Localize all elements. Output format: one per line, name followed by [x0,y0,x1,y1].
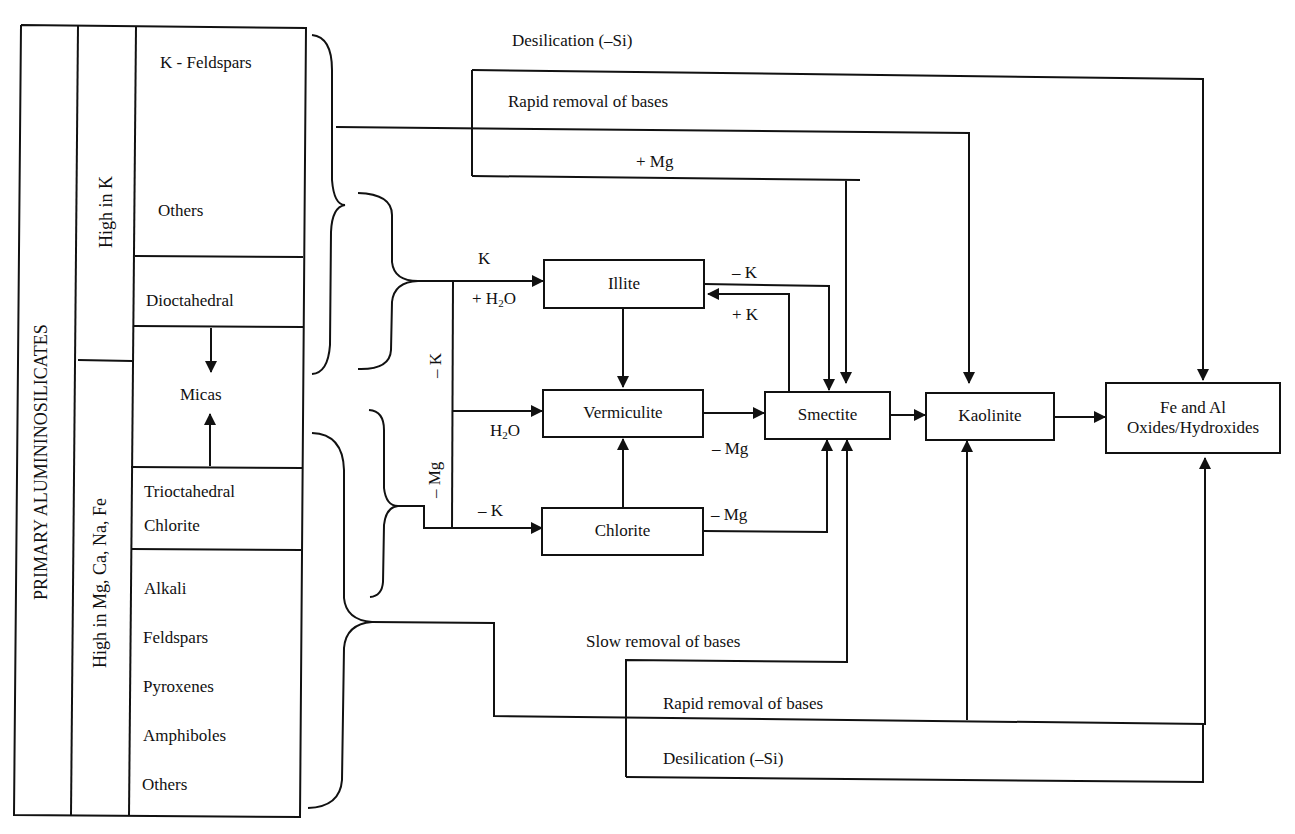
arrow-illite-to-smectite [704,284,829,390]
table-item-amphiboles: Amphiboles [143,727,226,744]
primary-aluminosilicates-label: PRIMARY ALUMININOSILICATES [32,324,50,600]
table-item-others-mg: Others [142,776,187,793]
node-chlorite: Chlorite [541,507,704,556]
brace-mg-ca-minerals [308,433,372,808]
h2o-suffix: O [508,421,520,440]
table-item-feldspars: Feldspars [143,629,208,646]
label-desilication-top: Desilication (–Si) [512,32,632,49]
table-item-chlorite: Chlorite [144,517,200,534]
route-rapid-removal-bottom [372,458,1205,724]
table-item-micas: Micas [180,386,222,403]
label-illite-plus-k: + K [732,306,758,323]
h2o-prefix: + H [472,289,498,308]
table-item-trioctahedral: Trioctahedral [144,483,235,500]
brace-trioctahedral [369,410,398,597]
table-item-others-k: Others [158,202,203,219]
label-plus-h2o: + H2O [472,290,516,309]
table-item-k-feldspars: K - Feldspars [160,54,252,71]
label-illite-minus-k: – K [732,264,757,281]
table-item-dioctahedral: Dioctahedral [146,292,234,309]
node-smectite: Smectite [764,391,891,440]
label-rapid-removal-bottom: Rapid removal of bases [663,695,823,712]
label-k: K [478,250,490,267]
table-item-pyroxenes: Pyroxenes [143,678,214,695]
brace-k-minerals [358,193,418,369]
group-label-high-mg-ca-na-fe: High in Mg, Ca, Na, Fe [91,498,109,668]
table-item-alkali: Alkali [144,580,187,597]
route-minus-k-vertical [452,281,453,528]
node-illite: Illite [543,259,705,309]
label-minus-k-chlorite: – K [478,502,503,519]
label-verm-minus-mg: – Mg [712,440,748,457]
route-desilication-top [472,70,1203,380]
h2o-prefix: H [490,421,502,440]
label-minus-mg-vertical: – Mg [426,462,443,498]
label-desilication-bottom: Desilication (–Si) [663,750,783,767]
node-oxides-line1: Fe and Al [1160,398,1226,418]
label-rapid-removal-top: Rapid removal of bases [508,93,668,110]
brace-high-k [312,35,345,374]
label-minus-k-vertical: – K [427,353,444,378]
label-h2o: H2O [490,422,520,441]
node-kaolinite: Kaolinite [925,392,1055,441]
route-slow-removal [626,440,847,777]
node-oxides-line2: Oxides/Hydroxides [1127,418,1259,438]
node-fe-al-oxides: Fe and Al Oxides/Hydroxides [1105,382,1281,454]
h2o-suffix: O [504,289,516,308]
label-slow-removal: Slow removal of bases [586,633,740,650]
group-label-high-k: High in K [97,176,115,248]
label-plus-mg: + Mg [636,153,673,170]
mineral-table-frame [14,25,306,817]
label-chlorite-minus-mg: – Mg [711,506,747,523]
arrow-to-chlorite [398,506,542,528]
node-vermiculite: Vermiculite [542,389,704,438]
